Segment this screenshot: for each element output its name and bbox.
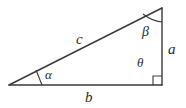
right-triangle-figure: c b a α β θ — [0, 0, 186, 108]
triangle-hypotenuse-line — [9, 8, 162, 85]
side-label-b: b — [85, 90, 93, 105]
angle-label-theta: θ — [137, 56, 143, 69]
right-angle-marker — [153, 76, 162, 85]
triangle-drawing — [0, 0, 186, 108]
beta-angle-arc — [143, 14, 162, 22]
angle-label-beta: β — [142, 25, 149, 39]
side-label-c: c — [76, 32, 83, 47]
angle-label-alpha: α — [45, 68, 52, 81]
alpha-angle-arc — [36, 70, 42, 85]
side-label-a: a — [168, 42, 176, 57]
